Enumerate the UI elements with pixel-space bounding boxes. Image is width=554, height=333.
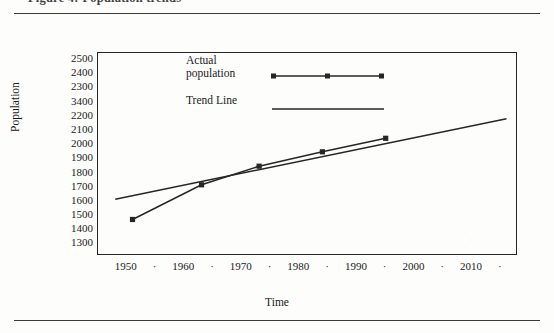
x-axis-tick-label: 1970 — [230, 260, 252, 272]
chart-legend: Actual population Trend Line — [186, 54, 386, 114]
horizontal-rule-bottom — [14, 320, 540, 321]
y-axis-tick-labels: 2500240023003400220021002000190018001700… — [53, 51, 93, 250]
y-axis-tick-label: 1600 — [53, 193, 93, 207]
legend-label-actual-line1: Actual — [186, 54, 217, 66]
x-axis-tick-label: 1960 — [172, 260, 194, 272]
y-axis-tick-label: 2400 — [53, 65, 93, 79]
x-axis-tick-separator: · — [498, 260, 502, 272]
x-axis-title: Time — [0, 296, 554, 308]
x-axis-tick-label: 1950 — [115, 260, 137, 272]
x-axis-tick-label: 1980 — [287, 260, 309, 272]
series-trend-line — [115, 119, 506, 199]
y-axis-tick-label: 2500 — [53, 51, 93, 65]
x-axis-tick-separator: · — [268, 260, 272, 272]
data-point-marker — [199, 182, 204, 187]
legend-item-trend-line: Trend Line — [186, 94, 386, 114]
horizontal-rule-top — [14, 13, 540, 14]
x-axis-tick-label: 2010 — [460, 260, 482, 272]
x-axis-tick-separator: · — [153, 260, 157, 272]
y-axis-tick-label: 2200 — [53, 108, 93, 122]
y-axis-tick-label: 1800 — [53, 165, 93, 179]
figure-page: Figure 4:Population trends Population Ti… — [0, 0, 554, 333]
figure-caption-label: Figure 4: — [28, 0, 79, 5]
legend-label-actual-line2: population — [186, 67, 235, 79]
series-actual-population — [130, 136, 388, 222]
y-axis-tick-label: 2000 — [53, 136, 93, 150]
y-axis-tick-label: 1700 — [53, 179, 93, 193]
data-point-marker — [383, 136, 388, 141]
x-axis-tick-labels: 1950·1960·1970·1980·1990·2000·2010· — [97, 260, 517, 276]
x-axis-tick-label: 1990 — [345, 260, 367, 272]
figure-caption: Figure 4:Population trends — [28, 0, 181, 6]
figure-caption-text: Population trends — [83, 0, 182, 5]
y-axis-title: Population — [9, 82, 21, 132]
data-point-marker — [320, 149, 325, 154]
x-axis-tick-separator: · — [325, 260, 329, 272]
legend-label-trend-line: Trend Line — [186, 94, 237, 106]
y-axis-tick-label: 2300 — [53, 79, 93, 93]
legend-swatch-actual-population — [270, 67, 386, 85]
data-point-marker — [257, 164, 262, 169]
legend-swatch-trend-line — [270, 98, 386, 116]
y-axis-tick-label: 3400 — [53, 94, 93, 108]
y-axis-tick-label: 1500 — [53, 207, 93, 221]
y-axis-tick-label: 1400 — [53, 221, 93, 235]
data-point-marker — [130, 217, 135, 222]
y-axis-tick-label: 2100 — [53, 122, 93, 136]
x-axis-tick-label: 2000 — [402, 260, 424, 272]
y-axis-tick-label: 1900 — [53, 150, 93, 164]
legend-item-actual-population: Actual population — [186, 54, 386, 84]
x-axis-tick-separator: · — [210, 260, 214, 272]
y-axis-tick-label: 1300 — [53, 235, 93, 249]
x-axis-tick-separator: · — [383, 260, 387, 272]
x-axis-tick-separator: · — [440, 260, 444, 272]
